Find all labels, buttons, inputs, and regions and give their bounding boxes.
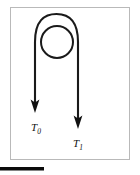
figure-border [11, 8, 130, 160]
label-t1-subscript: 1 [79, 143, 83, 152]
loop-circle [41, 26, 73, 58]
footer-rule [0, 167, 44, 171]
figure-container: T0 T1 [0, 0, 140, 175]
looped-path [35, 14, 78, 123]
figure-canvas: T0 T1 [0, 0, 140, 175]
label-t1: T1 [73, 137, 83, 152]
label-t0-subscript: 0 [37, 127, 41, 136]
label-t0: T0 [31, 121, 41, 136]
